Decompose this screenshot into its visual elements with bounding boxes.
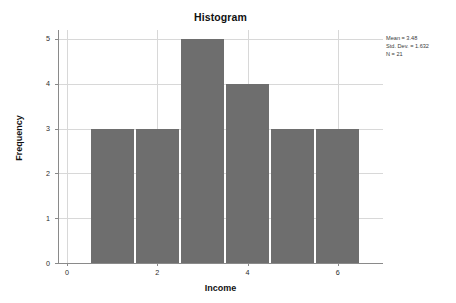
y-tick-label: 2 <box>34 169 50 178</box>
y-tick-label: 4 <box>34 79 50 88</box>
x-tick-label: 6 <box>328 268 348 277</box>
x-tick-mark <box>67 263 68 266</box>
y-tick-label: 0 <box>34 259 50 268</box>
x-tick-mark <box>338 263 339 266</box>
stat-std-dev: Std. Dev. = 1.632 <box>386 43 429 51</box>
stat-mean: Mean = 3.48 <box>386 35 429 43</box>
bar <box>271 129 314 263</box>
y-axis-title: Frequency <box>14 73 24 203</box>
plot-area <box>58 30 383 263</box>
bar <box>181 39 224 263</box>
y-tick-mark <box>55 129 58 130</box>
y-tick-mark <box>55 39 58 40</box>
bar <box>226 84 269 263</box>
statistics-annotation: Mean = 3.48 Std. Dev. = 1.632 N = 21 <box>386 35 429 59</box>
x-tick-mark <box>248 263 249 266</box>
x-tick-label: 0 <box>57 268 77 277</box>
y-tick-mark <box>55 263 58 264</box>
y-tick-label: 1 <box>34 214 50 223</box>
bar <box>316 129 359 263</box>
histogram-chart: Histogram Mean = 3.48 Std. Dev. = 1.632 … <box>0 0 456 303</box>
bar <box>91 129 134 263</box>
y-tick-mark <box>55 218 58 219</box>
bar-series <box>58 30 383 263</box>
bar <box>136 129 179 263</box>
plot-inner <box>58 30 383 263</box>
x-axis-title: Income <box>58 283 383 293</box>
y-tick-label: 5 <box>34 34 50 43</box>
x-tick-mark <box>157 263 158 266</box>
y-axis-line <box>58 30 59 263</box>
y-tick-mark <box>55 173 58 174</box>
x-tick-label: 2 <box>147 268 167 277</box>
x-axis-line <box>58 263 383 264</box>
stat-n: N = 21 <box>386 51 429 59</box>
x-tick-label: 4 <box>238 268 258 277</box>
chart-title: Histogram <box>58 11 383 23</box>
y-tick-label: 3 <box>34 124 50 133</box>
y-tick-mark <box>55 84 58 85</box>
